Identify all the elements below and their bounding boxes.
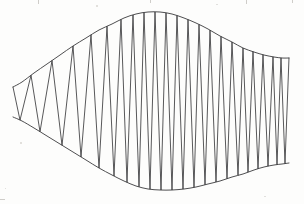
- plot-background: [0, 0, 304, 204]
- chirp-envelope-figure: [0, 0, 304, 204]
- waveform-plot: [0, 0, 304, 204]
